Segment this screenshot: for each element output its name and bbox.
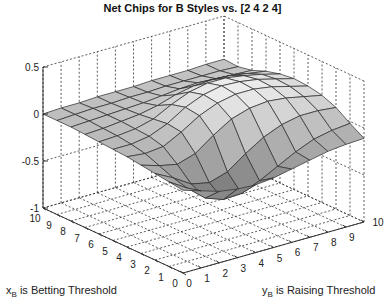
x-axis-label: xB is Betting Threshold (6, 284, 117, 296)
y-tick-label: 9 (349, 232, 355, 243)
x-tick-label: 1 (158, 272, 164, 283)
y-tick-label: 3 (241, 263, 247, 274)
z-tick-label: 0.5 (25, 62, 39, 73)
z-tick-label: -0.5 (22, 156, 40, 167)
y-tick-label: 4 (259, 258, 265, 269)
y-axis-label-main: y (262, 284, 268, 296)
x-tick (183, 273, 186, 275)
y-tick-label: 0 (186, 278, 192, 289)
x-tick-label: 2 (144, 265, 150, 276)
plot-area: -1-0.500.5012345678910012345678910 (0, 0, 385, 304)
floor-grid-line (155, 209, 336, 260)
x-tick-label: 0 (172, 278, 178, 289)
y-tick-label: 1 (204, 273, 210, 284)
x-axis-label-subscript: B (12, 290, 17, 299)
y-axis-label-text: is Raising Threshold (273, 284, 376, 296)
x-tick-label: 3 (130, 259, 136, 270)
floor-grid-line (141, 203, 322, 254)
y-tick-label: 5 (277, 253, 283, 264)
x-tick-label: 6 (88, 239, 94, 250)
y-axis-label-subscript: B (268, 290, 273, 299)
y-tick-label: 7 (313, 242, 319, 253)
x-tick-label: 10 (29, 213, 41, 224)
x-axis-label-text: is Betting Threshold (17, 284, 117, 296)
floor-grid-line (115, 188, 255, 253)
surface-plot: Net Chips for B Styles vs. [2 4 2 4] -1-… (0, 0, 385, 304)
y-tick-label: 2 (222, 268, 228, 279)
y-tick-label: 6 (295, 247, 301, 258)
x-axis-label-main: x (6, 284, 12, 296)
x-tick-label: 8 (60, 226, 66, 237)
x-tick-label: 9 (46, 220, 52, 231)
x-tick-label: 5 (102, 246, 108, 257)
z-tick-label: 0 (33, 109, 39, 120)
y-tick-label: 10 (372, 217, 384, 228)
y-tick-label: 8 (331, 237, 337, 248)
x-tick-label: 4 (116, 252, 122, 263)
x-tick-label: 7 (74, 233, 80, 244)
y-axis-label: yB is Raising Threshold (262, 284, 375, 296)
